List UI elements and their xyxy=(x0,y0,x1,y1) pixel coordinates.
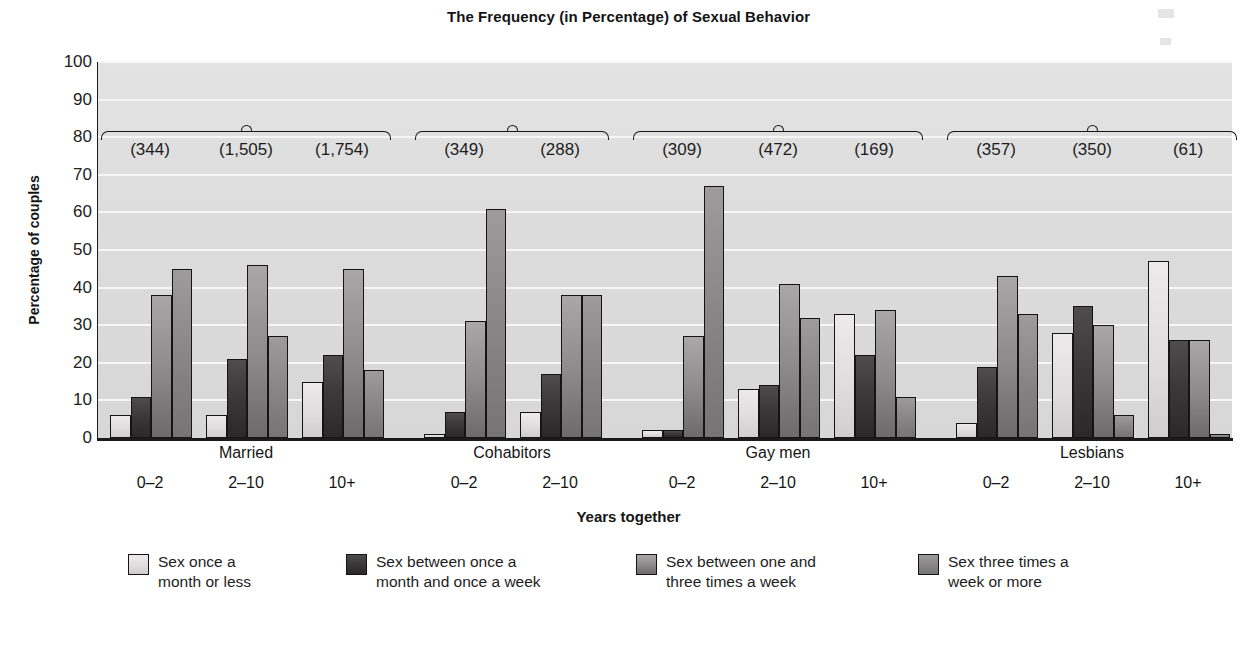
bar xyxy=(172,269,193,438)
gridline xyxy=(98,174,1232,176)
bar xyxy=(582,295,603,438)
group-brace xyxy=(633,131,923,140)
bar xyxy=(206,415,227,438)
legend-item[interactable]: Sex once amonth or less xyxy=(128,552,346,604)
y-tick-label: 90 xyxy=(32,91,92,108)
x-tick-label: 2–10 xyxy=(728,474,828,492)
bar xyxy=(997,276,1018,438)
bar xyxy=(486,209,507,438)
y-tick-label: 80 xyxy=(32,128,92,145)
bar xyxy=(1073,306,1094,438)
bar xyxy=(520,412,541,438)
legend-label: Sex between one andthree times a week xyxy=(666,552,816,592)
x-tick-label: 0–2 xyxy=(100,474,200,492)
bar xyxy=(1093,325,1114,438)
scan-artifact xyxy=(1158,9,1174,18)
chart-title: The Frequency (in Percentage) of Sexual … xyxy=(0,8,1257,25)
x-tick-label: 0–2 xyxy=(414,474,514,492)
y-tick-label: 60 xyxy=(32,203,92,220)
legend-swatch-icon xyxy=(918,554,939,575)
x-tick-label: 10+ xyxy=(292,474,392,492)
bar xyxy=(227,359,248,438)
group-brace-tip xyxy=(773,125,784,132)
bar xyxy=(738,389,759,438)
x-tick-label: 10+ xyxy=(1138,474,1238,492)
gridline xyxy=(98,287,1232,289)
bar xyxy=(759,385,780,438)
bar xyxy=(302,382,323,438)
bar xyxy=(131,397,152,438)
subgroup-count: (309) xyxy=(632,140,732,160)
chart-legend: Sex once amonth or lessSex between once … xyxy=(128,552,1138,604)
group-brace-tip xyxy=(507,125,518,132)
bar xyxy=(561,295,582,438)
x-axis-label: Years together xyxy=(0,508,1257,525)
legend-item[interactable]: Sex three times aweek or more xyxy=(918,552,1138,604)
bar xyxy=(663,430,684,438)
legend-label: Sex between once amonth and once a week xyxy=(376,552,541,592)
y-tick-label: 40 xyxy=(32,279,92,296)
y-tick-label: 50 xyxy=(32,241,92,258)
y-tick-label: 20 xyxy=(32,354,92,371)
subgroup-count: (357) xyxy=(946,140,1046,160)
x-tick-label: 0–2 xyxy=(632,474,732,492)
group-label: Cohabitors xyxy=(422,444,602,462)
bar xyxy=(642,430,663,438)
bar xyxy=(445,412,466,438)
bar xyxy=(704,186,725,438)
group-brace xyxy=(947,131,1237,140)
subgroup-count: (61) xyxy=(1138,140,1238,160)
plot-area xyxy=(97,62,1232,438)
legend-label: Sex three times aweek or more xyxy=(948,552,1069,592)
y-tick-label: 0 xyxy=(32,429,92,446)
bar xyxy=(1052,333,1073,438)
subgroup-count: (472) xyxy=(728,140,828,160)
bar xyxy=(465,321,486,438)
x-tick-label: 0–2 xyxy=(946,474,1046,492)
bar xyxy=(834,314,855,438)
x-tick-label: 2–10 xyxy=(196,474,296,492)
bar xyxy=(896,397,917,438)
subgroup-count: (1,754) xyxy=(292,140,392,160)
x-tick-label: 10+ xyxy=(824,474,924,492)
group-brace-tip xyxy=(241,125,252,132)
subgroup-count: (349) xyxy=(414,140,514,160)
x-tick-label: 2–10 xyxy=(1042,474,1142,492)
bar xyxy=(343,269,364,438)
bar xyxy=(1018,314,1039,438)
group-brace xyxy=(101,131,391,140)
group-brace xyxy=(415,131,609,140)
bar xyxy=(855,355,876,438)
group-label: Married xyxy=(156,444,336,462)
bar xyxy=(779,284,800,438)
x-axis-line xyxy=(97,438,1233,441)
legend-label: Sex once amonth or less xyxy=(158,552,251,592)
subgroup-count: (350) xyxy=(1042,140,1142,160)
bar xyxy=(541,374,562,438)
group-label: Lesbians xyxy=(1002,444,1182,462)
group-label: Gay men xyxy=(688,444,868,462)
bar xyxy=(151,295,172,438)
y-tick-label: 100 xyxy=(32,53,92,70)
legend-item[interactable]: Sex between once amonth and once a week xyxy=(346,552,636,604)
legend-swatch-icon xyxy=(636,554,657,575)
x-tick-label: 2–10 xyxy=(510,474,610,492)
bar xyxy=(1114,415,1135,438)
y-tick-label: 70 xyxy=(32,166,92,183)
bar xyxy=(323,355,344,438)
gridline xyxy=(98,61,1232,63)
legend-item[interactable]: Sex between one andthree times a week xyxy=(636,552,918,604)
bar xyxy=(956,423,977,438)
bar xyxy=(683,336,704,438)
y-tick-label: 30 xyxy=(32,316,92,333)
gridline xyxy=(98,211,1232,213)
bar xyxy=(1148,261,1169,438)
bar xyxy=(1189,340,1210,438)
bar xyxy=(977,367,998,438)
bar xyxy=(1169,340,1190,438)
gridline xyxy=(98,99,1232,101)
subgroup-count: (1,505) xyxy=(196,140,296,160)
legend-swatch-icon xyxy=(346,554,367,575)
bar xyxy=(268,336,289,438)
legend-swatch-icon xyxy=(128,554,149,575)
